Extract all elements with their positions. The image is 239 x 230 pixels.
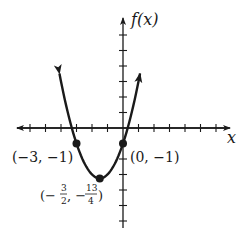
svg-text:13: 13 [86,183,98,193]
svg-text:): ) [98,188,103,203]
point-label-minus3-minus1: (−3, −1) [12,149,73,165]
point-marker [119,140,127,148]
point-label-0-minus1: (0, −1) [130,149,179,165]
svg-text:4: 4 [88,196,94,206]
function-graph: x f(x) (−3, −1) (0, −1) (− 3 2 , − 13 4 … [0,0,239,230]
svg-text:2: 2 [61,196,67,206]
highlighted-points [73,140,128,183]
point-marker [73,140,81,148]
x-axis-label: x [227,128,236,147]
svg-text:(−: (− [40,188,56,203]
point-marker [96,174,104,182]
y-axis-label: f(x) [130,10,158,29]
vertex-label: (− 3 2 , − 13 4 ) [40,183,103,206]
y-axis [119,18,127,228]
svg-text:, −: , − [67,188,86,203]
